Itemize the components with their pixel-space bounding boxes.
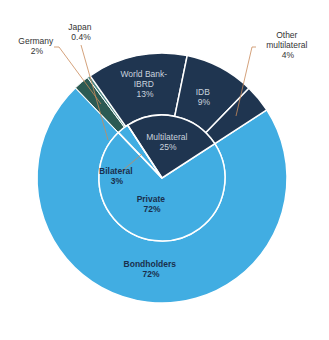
label-japan: Japan 0.4% <box>68 22 94 42</box>
label-other-multilateral: Other multilateral 4% <box>266 30 309 60</box>
label-idb: IDB 9% <box>196 87 213 107</box>
label-germany: Germany 2% <box>18 36 55 56</box>
nested-donut-chart: Germany 2% Japan 0.4% Other multilateral… <box>0 0 329 340</box>
